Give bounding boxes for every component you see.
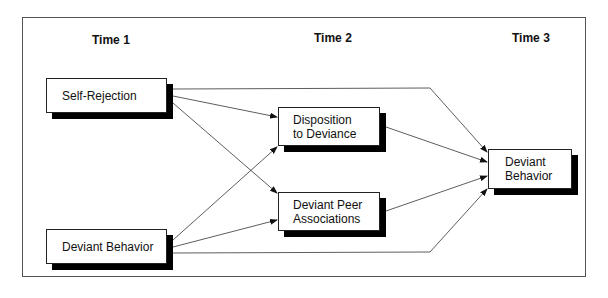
time-1-label: Time 1 <box>92 33 130 47</box>
node-self-rejection-label: Self-Rejection <box>62 89 137 103</box>
node-peer-associations: Deviant Peer Associations <box>278 192 380 231</box>
node-disposition: Disposition to Deviance <box>278 107 380 146</box>
time-3-label: Time 3 <box>512 31 550 45</box>
edge-disposition-behavior-t3 <box>386 127 487 162</box>
node-peer-associations-label: Deviant Peer Associations <box>293 198 362 226</box>
node-deviant-behavior-t3: Deviant Behavior <box>488 149 572 189</box>
node-deviant-behavior-t1-label: Deviant Behavior <box>62 240 153 254</box>
edge-selfrej-disposition <box>173 96 277 117</box>
node-disposition-label: Disposition to Deviance <box>293 113 356 141</box>
node-self-rejection: Self-Rejection <box>46 78 167 113</box>
edge-behavior-t1-disposition <box>173 147 277 240</box>
node-deviant-behavior-t1: Deviant Behavior <box>46 229 167 264</box>
time-2-label: Time 2 <box>314 31 352 45</box>
edge-selfrej-peer <box>173 103 277 193</box>
edge-behavior-t1-peer <box>173 220 277 247</box>
node-deviant-behavior-t3-label: Deviant Behavior <box>505 155 552 183</box>
